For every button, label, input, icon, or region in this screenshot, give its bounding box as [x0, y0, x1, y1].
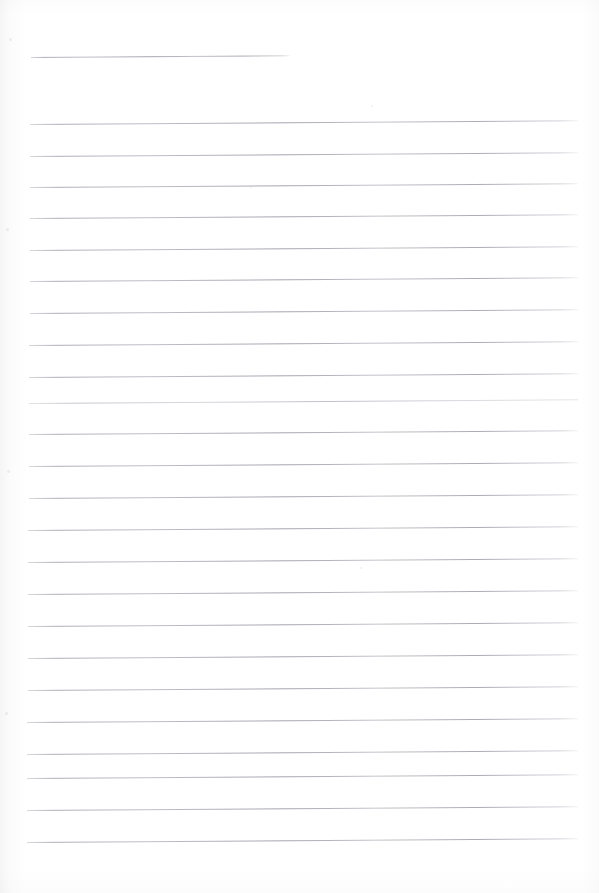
ruled-line [28, 622, 578, 627]
paper-speck [6, 228, 9, 231]
ruled-line [28, 558, 578, 563]
ruled-line [30, 120, 578, 125]
paper-speck [7, 470, 10, 473]
ruled-line [29, 462, 578, 467]
ruled-line [30, 309, 578, 314]
paper-speck [360, 567, 362, 569]
scan-edge-right-shading [581, 0, 599, 893]
paper-speck [5, 712, 8, 715]
scan-edge-top-shading [0, 0, 599, 14]
paper-speck [9, 38, 12, 41]
scan-edge-left-shading [0, 0, 26, 893]
ruled-line [28, 654, 578, 659]
ruled-line [28, 686, 578, 691]
ruled-line [29, 430, 578, 435]
scanned-page [0, 0, 599, 893]
paper-speck [371, 105, 373, 107]
ruled-line [29, 341, 578, 346]
ruled-line [29, 494, 578, 499]
ruled-line [30, 214, 578, 219]
ruled-line [29, 399, 578, 404]
ruled-line [30, 277, 578, 282]
ruled-line [27, 806, 578, 811]
ruled-line [30, 152, 578, 157]
ruled-line [29, 373, 578, 378]
ruled-line [27, 750, 578, 755]
ruled-line [28, 590, 578, 595]
scan-edge-bottom-shading [0, 867, 599, 893]
ruled-line [27, 838, 578, 843]
ruled-line [30, 183, 578, 188]
ruled-line [27, 718, 578, 723]
ruled-line [28, 526, 578, 531]
ruled-line [27, 774, 578, 779]
ruled-line [30, 246, 578, 251]
ruled-line [31, 55, 290, 58]
